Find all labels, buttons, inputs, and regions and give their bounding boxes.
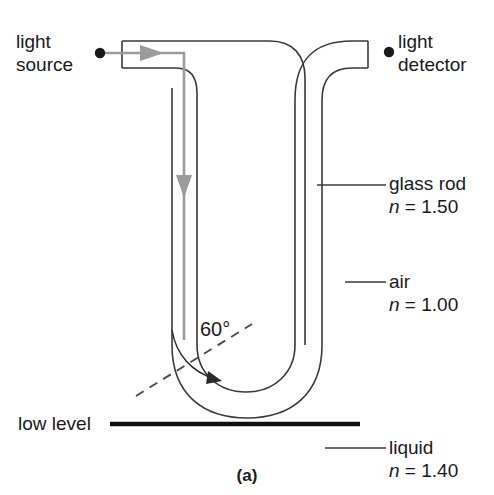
rod-elbow-top-right-inner <box>322 68 368 100</box>
label-air-name: air <box>389 270 458 293</box>
label-angle-60: 60° <box>200 318 230 341</box>
index-symbol-n: n <box>389 294 400 315</box>
figure-caption: (a) <box>0 464 494 487</box>
label-light-source: light source <box>16 30 73 76</box>
index-value: = 1.00 <box>400 294 459 315</box>
rod-wall-top-left-outer <box>122 41 305 345</box>
normal-dashed-line <box>136 324 252 396</box>
label-light-detector: light detector <box>398 30 467 76</box>
index-value: = 1.50 <box>400 196 459 217</box>
label-light-source-line1: light <box>16 30 73 53</box>
label-light-detector-line2: detector <box>398 53 467 76</box>
index-symbol-n: n <box>389 196 400 217</box>
u-bend-outer-arc <box>172 345 322 418</box>
label-liquid-name: liquid <box>389 436 458 459</box>
u-bend-inner-arc <box>197 345 295 392</box>
rod-elbow-top-right-outer <box>295 41 368 100</box>
ray-arrow-right-icon <box>140 45 164 61</box>
label-light-detector-line1: light <box>398 30 467 53</box>
light-detector-dot <box>384 47 394 57</box>
label-glass-rod-index: n = 1.50 <box>389 195 466 218</box>
figure-root: light source light detector glass rod n … <box>0 0 494 495</box>
label-air: air n = 1.00 <box>389 270 458 316</box>
rod-wall-top-left-inner <box>122 68 197 345</box>
label-low-level: low level <box>18 412 91 435</box>
label-glass-rod: glass rod n = 1.50 <box>389 172 466 218</box>
ray-arrow-down-icon <box>176 175 192 198</box>
light-source-dot <box>95 48 105 58</box>
label-air-index: n = 1.00 <box>389 293 458 316</box>
label-light-source-line2: source <box>16 53 73 76</box>
angle-arc-arrow-icon <box>206 371 222 384</box>
label-glass-rod-name: glass rod <box>389 172 466 195</box>
